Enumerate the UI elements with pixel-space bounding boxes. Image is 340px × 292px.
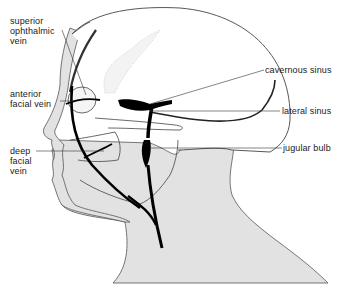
label-cavernous-sinus: cavernous sinus — [265, 65, 332, 75]
label-deep-facial-vein: deep facial vein — [10, 146, 32, 176]
label-lateral-sinus: lateral sinus — [282, 106, 331, 116]
label-superior-ophthalmic-vein: superior ophthalmic vein — [10, 16, 55, 46]
anatomy-diagram: superior ophthalmic vein anterior facial… — [0, 0, 340, 292]
label-jugular-bulb: jugular bulb — [283, 143, 331, 153]
label-anterior-facial-vein: anterior facial vein — [10, 89, 51, 109]
